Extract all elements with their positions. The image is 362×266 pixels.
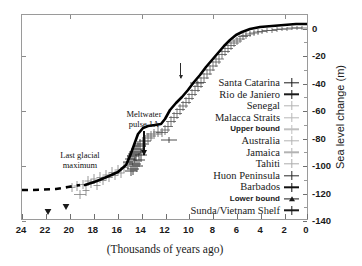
- xtick-top-8: [213, 15, 214, 19]
- plot-frame: Last glacial maximum Meltwater pulse 1A …: [21, 14, 308, 220]
- last-glacial-maximum-annotation: Last glacial maximum: [56, 151, 104, 170]
- ytick-label-m20: -20: [312, 50, 326, 61]
- xtick-12: [166, 214, 167, 219]
- ytick-label-m80: -80: [312, 132, 326, 143]
- xtick-label-14: 14: [135, 224, 146, 235]
- legend-label-lower-bound: Lower bound: [230, 193, 280, 205]
- legend-label-jamaica: Jamaica: [246, 147, 280, 159]
- legend-item-senegal[interactable]: Senegal: [171, 100, 299, 112]
- ytick-m100: [303, 166, 307, 167]
- plus-marker-icon: [284, 182, 299, 193]
- ytick-minor-m30: [304, 70, 307, 71]
- ytick-m120: [303, 194, 307, 195]
- legend-label-malacca-straits: Malacca Straits: [215, 112, 280, 124]
- x-axis-title: (Thousands of years ago): [0, 243, 330, 255]
- y-axis-title-text: Sea level change (m): [334, 65, 346, 169]
- xtick-label-16: 16: [111, 224, 122, 235]
- plus-marker-icon: [284, 135, 299, 146]
- plus-marker-icon: [284, 112, 299, 123]
- legend-label-australia: Australia: [242, 135, 281, 147]
- xtick-label-2: 2: [281, 224, 286, 235]
- legend-label-barbados: Barbados: [240, 181, 280, 193]
- legend-label-upper-bound: Upper bound: [230, 123, 280, 135]
- xtick-16: [118, 214, 119, 219]
- xtick-label-4: 4: [258, 224, 263, 235]
- ytick-m80: [303, 139, 307, 140]
- ytick-m60: [303, 111, 307, 112]
- xtick-24: [22, 214, 23, 219]
- plus-marker-icon: [284, 89, 299, 100]
- triangle-marker-icon: [284, 193, 299, 204]
- ytick-left-m60: [22, 111, 26, 112]
- secondary-arrow-icon: [180, 63, 181, 78]
- legend-item-sunda-vietnam-shelf[interactable]: Sunda/Vietnam Shelf: [171, 205, 299, 217]
- xtick-top-20: [70, 15, 71, 19]
- ytick-left-m140: [22, 221, 26, 222]
- legend: Santa Catarina Rio de Janiero Senegal Ma…: [171, 77, 299, 216]
- legend-item-australia[interactable]: Australia: [171, 135, 299, 147]
- ytick-minor-m130: [304, 207, 307, 208]
- ytick-left-m100: [22, 166, 26, 167]
- plus-marker-icon: [284, 147, 299, 158]
- xtick-label-10: 10: [183, 224, 194, 235]
- legend-item-upper-bound[interactable]: Upper bound: [171, 123, 299, 135]
- ytick-minor-m110: [304, 180, 307, 181]
- xtick-22: [46, 214, 47, 219]
- sea-level-chart: Last glacial maximum Meltwater pulse 1A …: [0, 0, 362, 266]
- ytick-m140: [303, 221, 307, 222]
- xtick-label-0: 0: [303, 224, 308, 235]
- meltwater-pulse-arrow-icon: [143, 131, 145, 155]
- plus-marker-icon: [284, 124, 299, 135]
- legend-item-jamaica[interactable]: Jamaica: [171, 147, 299, 159]
- xtick-0: [307, 214, 308, 219]
- ytick-m40: [303, 84, 307, 85]
- plus-marker-icon: [284, 205, 299, 216]
- plus-marker-icon: [284, 158, 299, 169]
- xtick-label-20: 20: [64, 224, 75, 235]
- legend-label-santa-catarina: Santa Catarina: [218, 77, 280, 89]
- plus-marker-icon: [284, 77, 299, 88]
- xtick-top-14: [142, 15, 143, 19]
- ytick-label-m100: -100: [312, 160, 331, 171]
- xtick-label-8: 8: [210, 224, 215, 235]
- ytick-label-m140: -140: [312, 215, 331, 226]
- ytick-m20: [303, 56, 307, 57]
- plus-marker-icon: [284, 170, 299, 181]
- ytick-left-m20: [22, 56, 26, 57]
- y-axis-title: Sea level change (m): [330, 14, 350, 220]
- xtick-label-22: 22: [40, 224, 51, 235]
- xtick-label-12: 12: [159, 224, 170, 235]
- legend-item-rio-de-janiero[interactable]: Rio de Janiero: [171, 89, 299, 101]
- legend-item-huon-peninsula[interactable]: Huon Peninsula: [171, 170, 299, 182]
- xtick-14: [142, 214, 143, 219]
- ytick-label-m60: -60: [312, 105, 326, 116]
- ytick-minor-m50: [304, 97, 307, 98]
- lower-bound-markers: [45, 204, 70, 215]
- legend-item-malacca-straits[interactable]: Malacca Straits: [171, 112, 299, 124]
- plus-marker-icon: [284, 100, 299, 111]
- legend-label-huon-peninsula: Huon Peninsula: [213, 170, 280, 182]
- ytick-label-0: 0: [312, 22, 317, 33]
- ytick-minor-m90: [304, 152, 307, 153]
- legend-item-lower-bound[interactable]: Lower bound: [171, 193, 299, 205]
- meltwater-pulse-annotation: Meltwater pulse 1A: [118, 110, 170, 129]
- ytick-label-m120: -120: [312, 187, 331, 198]
- xtick-20: [70, 214, 71, 219]
- ytick-label-m40: -40: [312, 77, 326, 88]
- xtick-18: [94, 214, 95, 219]
- legend-label-sunda-vietnam-shelf: Sunda/Vietnam Shelf: [191, 205, 280, 217]
- mwp-annotation-text: Meltwater pulse 1A: [127, 109, 162, 129]
- legend-item-tahiti[interactable]: Tahiti: [171, 158, 299, 170]
- xtick-label-24: 24: [16, 224, 27, 235]
- legend-item-barbados[interactable]: Barbados: [171, 181, 299, 193]
- legend-label-tahiti: Tahiti: [256, 158, 280, 170]
- ytick-minor-m10: [304, 42, 307, 43]
- lgm-dashed-line: [22, 185, 80, 190]
- ytick-0: [303, 29, 307, 30]
- xtick-label-6: 6: [234, 224, 239, 235]
- xtick-top-2: [285, 15, 286, 19]
- legend-item-santa-catarina[interactable]: Santa Catarina: [171, 77, 299, 89]
- legend-label-senegal: Senegal: [247, 100, 280, 112]
- legend-label-rio-de-janiero: Rio de Janiero: [219, 89, 280, 101]
- ytick-minor-m70: [304, 125, 307, 126]
